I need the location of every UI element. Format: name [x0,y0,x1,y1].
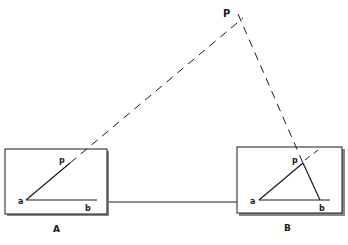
label-board-b: B [284,223,291,233]
label-b-vertex-p: p [292,156,298,165]
label-a-vertex-a: a [18,197,23,206]
triangulation-diagram: P a b p A a b p B [0,0,348,245]
label-point-p: P [223,8,230,19]
label-a-vertex-p: p [59,156,65,165]
diagram-svg: P a b p A a b p B [0,0,348,245]
label-b-vertex-a: a [250,197,255,206]
ray-from-a [70,18,243,163]
label-a-vertex-b: b [85,204,91,213]
label-board-a: A [53,224,60,234]
label-b-vertex-b: b [319,204,325,213]
ray-from-b [238,14,303,163]
